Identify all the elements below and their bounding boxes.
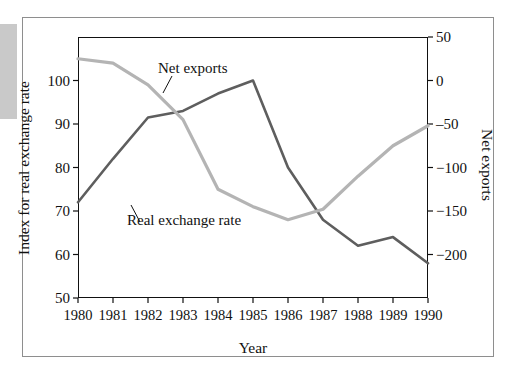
x-tick-label: 1988 — [344, 308, 373, 323]
x-tick-label: 1981 — [99, 308, 128, 323]
y-left-tick-label: 90 — [55, 117, 70, 132]
y-axis-right-title: Net exports — [478, 129, 496, 201]
x-axis-title: Year — [239, 339, 268, 357]
x-tick-label: 1985 — [239, 308, 268, 323]
y-axis-left-title: Index for real exchange rate — [15, 81, 33, 255]
y-left-tick-label: 70 — [55, 204, 70, 219]
figure-page: 5060708090100 500‒50−100−150−200 1980198… — [0, 0, 512, 374]
x-tick-label: 1984 — [204, 308, 233, 323]
y-right-tick-label: ‒50 — [436, 117, 459, 132]
y-right-tick-label: 50 — [436, 30, 451, 45]
y-left-tick-label: 80 — [55, 160, 70, 175]
x-tick-label: 1987 — [309, 308, 338, 323]
plot-frame — [78, 37, 428, 298]
x-tick-label: 1989 — [379, 308, 408, 323]
x-tick-label: 1982 — [134, 308, 163, 323]
series-label-real-exchange-rate: Real exchange rate — [127, 212, 241, 229]
y-right-tick-label: −100 — [436, 160, 467, 175]
x-tick-label: 1980 — [64, 308, 93, 323]
y-left-tick-label: 60 — [55, 247, 70, 262]
x-tick-label: 1990 — [414, 308, 443, 323]
x-tick-label: 1986 — [274, 308, 303, 323]
y-right-tick-label: −150 — [436, 204, 467, 219]
x-tick-label: 1983 — [169, 308, 198, 323]
y-left-tick-label: 100 — [48, 73, 71, 88]
y-left-tick-label: 50 — [55, 291, 70, 306]
y-right-tick-label: 0 — [436, 73, 444, 88]
series-label-net-exports: Net exports — [158, 60, 228, 77]
y-right-tick-label: −200 — [436, 247, 467, 262]
